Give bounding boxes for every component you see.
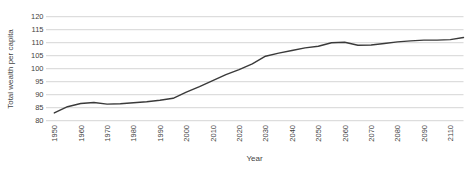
y-tick-label: 105 xyxy=(31,51,44,60)
x-tick-label: 2010 xyxy=(209,125,218,142)
x-tick-label: 1960 xyxy=(77,125,86,142)
y-axis-title: Total wealth per capita xyxy=(6,29,15,109)
y-tick-label: 90 xyxy=(35,90,43,99)
y-tick-label: 120 xyxy=(31,12,44,21)
y-tick-label: 80 xyxy=(35,116,43,125)
x-tick-label: 2090 xyxy=(420,125,429,142)
chart-canvas: 80859095100105110115120 1950196019701980… xyxy=(0,0,470,171)
x-tick-label: 2060 xyxy=(341,125,350,142)
x-tick-label: 2030 xyxy=(261,125,270,142)
x-tick-label: 2080 xyxy=(393,125,402,142)
y-axis-tick-labels: 80859095100105110115120 xyxy=(31,12,44,125)
y-tick-label: 110 xyxy=(32,38,44,47)
x-axis-title: Year xyxy=(246,154,263,163)
gridlines xyxy=(46,17,464,121)
y-tick-label: 85 xyxy=(35,103,43,112)
x-tick-label: 2070 xyxy=(367,125,376,142)
line-chart: 80859095100105110115120 1950196019701980… xyxy=(0,0,470,171)
x-tick-label: 2000 xyxy=(182,125,191,142)
x-tick-label: 2040 xyxy=(288,125,297,142)
x-tick-label: 1950 xyxy=(50,125,59,142)
y-tick-label: 95 xyxy=(35,77,43,86)
x-tick-label: 2020 xyxy=(235,125,244,142)
x-tick-label: 1990 xyxy=(156,125,165,142)
y-tick-label: 100 xyxy=(31,64,44,73)
x-axis-tick-labels: 1950196019701980199020002010202020302040… xyxy=(50,125,455,142)
x-tick-label: 1970 xyxy=(103,125,112,142)
wealth-series-line xyxy=(54,38,463,113)
y-tick-label: 115 xyxy=(32,25,44,34)
x-tick-label: 2050 xyxy=(314,125,323,142)
x-tick-label: 1980 xyxy=(129,125,138,142)
x-tick-label: 2110 xyxy=(446,125,455,141)
